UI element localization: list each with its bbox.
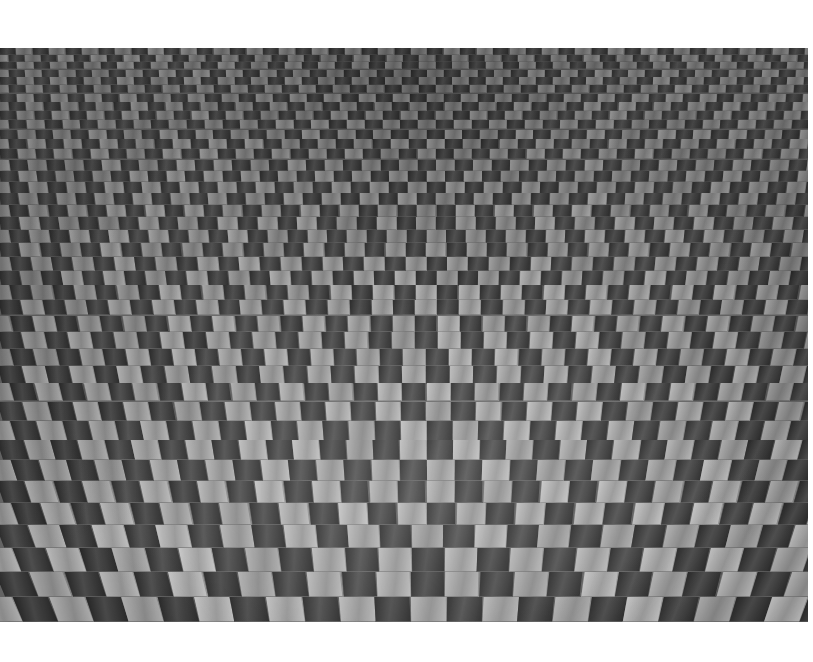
tile-row <box>0 383 808 401</box>
dark-tile <box>415 316 438 332</box>
light-tile <box>345 332 369 349</box>
light-tile <box>612 171 631 182</box>
light-tile <box>378 383 403 401</box>
dark-tile <box>45 139 64 149</box>
light-tile <box>129 171 149 182</box>
dark-tile <box>266 285 289 300</box>
dark-tile <box>518 139 536 149</box>
dark-tile <box>108 149 127 159</box>
light-tile <box>411 48 427 55</box>
light-tile <box>591 366 616 384</box>
light-tile <box>188 94 206 103</box>
dark-tile <box>177 460 209 481</box>
light-tile <box>679 349 704 366</box>
dark-tile <box>751 94 769 103</box>
dark-tile <box>618 460 648 481</box>
light-tile <box>398 193 417 205</box>
dark-tile <box>540 182 559 194</box>
dark-tile <box>9 160 29 171</box>
light-tile <box>608 139 627 149</box>
dark-tile <box>68 94 86 103</box>
dark-tile <box>699 139 718 149</box>
light-tile <box>790 139 808 149</box>
light-tile <box>185 440 215 460</box>
light-tile <box>445 572 480 597</box>
light-tile <box>447 257 468 271</box>
light-tile <box>285 62 302 69</box>
dark-tile <box>367 230 387 243</box>
light-tile <box>623 597 664 622</box>
light-tile <box>401 111 419 120</box>
dark-tile <box>608 243 629 257</box>
light-tile <box>228 230 249 243</box>
light-tile <box>366 111 384 120</box>
light-tile <box>519 62 536 69</box>
dark-tile <box>191 139 210 149</box>
light-tile <box>489 257 510 271</box>
dark-tile <box>86 300 111 315</box>
light-tile <box>329 383 355 401</box>
dark-tile <box>505 316 528 332</box>
light-tile <box>226 111 244 120</box>
light-tile <box>297 421 325 441</box>
dark-tile <box>205 94 223 103</box>
light-tile <box>90 149 109 159</box>
light-tile <box>806 160 808 171</box>
light-tile <box>333 85 350 93</box>
dark-tile <box>325 316 348 332</box>
dark-tile <box>43 102 61 111</box>
dark-tile <box>305 300 328 315</box>
dark-tile <box>115 120 134 129</box>
light-tile <box>476 402 502 421</box>
light-tile <box>596 481 627 503</box>
dark-tile <box>717 94 735 103</box>
dark-tile <box>701 349 727 366</box>
dark-tile <box>691 440 721 460</box>
light-tile <box>526 149 544 159</box>
dark-tile <box>585 440 614 460</box>
dark-tile <box>185 171 205 182</box>
light-tile <box>501 171 520 182</box>
light-tile <box>724 349 750 366</box>
light-tile <box>26 120 45 129</box>
dark-tile <box>603 62 620 69</box>
light-tile <box>26 102 44 111</box>
dark-tile <box>197 48 214 55</box>
dark-tile <box>427 48 443 55</box>
dark-tile <box>34 94 52 103</box>
dark-tile <box>460 48 476 55</box>
light-tile <box>325 160 344 171</box>
light-tile <box>307 230 328 243</box>
dark-tile <box>344 460 373 481</box>
dark-tile <box>805 182 808 194</box>
light-tile <box>664 230 685 243</box>
dark-tile <box>232 160 251 171</box>
light-tile <box>732 160 752 171</box>
light-tile <box>713 332 739 349</box>
light-tile <box>69 366 97 384</box>
light-tile <box>663 525 699 548</box>
light-tile <box>473 160 492 171</box>
light-tile <box>709 85 727 93</box>
light-tile <box>292 440 321 460</box>
dark-tile <box>320 130 338 140</box>
light-tile <box>200 102 218 111</box>
light-tile <box>768 94 786 103</box>
light-tile <box>155 257 178 271</box>
tile-row <box>0 217 808 230</box>
dark-tile <box>778 503 808 525</box>
light-tile <box>127 149 146 159</box>
light-tile <box>378 548 412 572</box>
light-tile <box>649 171 668 182</box>
light-tile <box>753 139 772 149</box>
dark-tile <box>623 271 645 286</box>
light-tile <box>575 217 595 230</box>
dark-tile <box>303 193 323 205</box>
light-tile <box>245 421 273 441</box>
dark-tile <box>239 94 257 103</box>
dark-tile <box>518 349 542 366</box>
dark-tile <box>55 316 81 332</box>
dark-tile <box>316 525 350 548</box>
dark-tile <box>714 160 733 171</box>
dark-tile <box>536 62 553 69</box>
